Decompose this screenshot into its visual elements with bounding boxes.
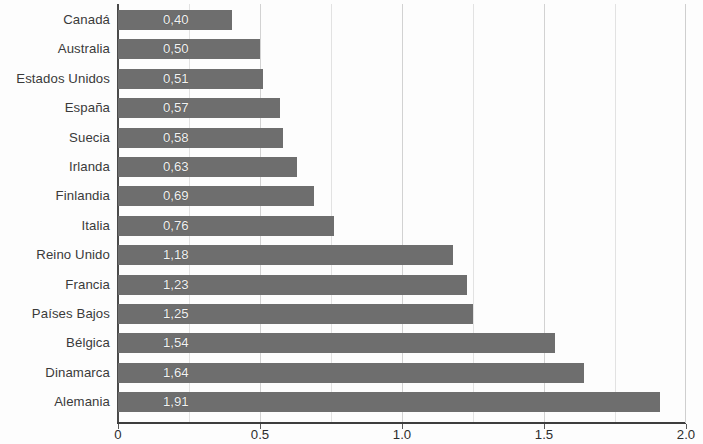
bar: [118, 69, 263, 89]
bar-row: Irlanda0,63: [0, 157, 703, 186]
bar: [118, 128, 283, 148]
x-tick-label: 2.0: [677, 427, 695, 442]
category-label: Suecia: [0, 128, 110, 148]
category-label: Canadá: [0, 10, 110, 30]
category-label: Finlandia: [0, 186, 110, 206]
x-tick-label: 1.5: [535, 427, 553, 442]
bar: [118, 216, 334, 236]
bar-value-label: 0,58: [163, 128, 189, 148]
bar-value-label: 1,18: [163, 245, 189, 265]
bar-value-label: 1,64: [163, 363, 189, 383]
bar-value-label: 1,91: [163, 392, 189, 412]
category-label: Países Bajos: [0, 304, 110, 324]
bar-value-label: 0,57: [163, 98, 189, 118]
bar-row: Reino Unido1,18: [0, 245, 703, 274]
bar-value-label: 1,25: [163, 304, 189, 324]
category-label: Dinamarca: [0, 363, 110, 383]
bar-row: Canadá0,40: [0, 10, 703, 39]
x-tick-label: 0: [114, 427, 121, 442]
category-label: Bélgica: [0, 333, 110, 353]
bar-row: Finlandia0,69: [0, 186, 703, 215]
bar-value-label: 0,69: [163, 186, 189, 206]
bar-row: Bélgica1,54: [0, 333, 703, 362]
bar: [118, 39, 260, 59]
bar-row: Países Bajos1,25: [0, 304, 703, 333]
category-label: Italia: [0, 216, 110, 236]
category-label: Estados Unidos: [0, 69, 110, 89]
bar-value-label: 0,76: [163, 216, 189, 236]
bar-row: Francia1,23: [0, 275, 703, 304]
x-tick-label: 0.5: [251, 427, 269, 442]
bar-row: Dinamarca1,64: [0, 363, 703, 392]
bar-value-label: 0,51: [163, 69, 189, 89]
bar-value-label: 1,23: [163, 275, 189, 295]
bar: [118, 98, 280, 118]
bar-value-label: 0,63: [163, 157, 189, 177]
category-label: Alemania: [0, 392, 110, 412]
x-tick-label: 1.0: [393, 427, 411, 442]
bar-value-label: 1,54: [163, 333, 189, 353]
category-label: Irlanda: [0, 157, 110, 177]
bar-row: Italia0,76: [0, 216, 703, 245]
bar-row: Alemania1,91: [0, 392, 703, 421]
bar: [118, 186, 314, 206]
bar-row: Suecia0,58: [0, 128, 703, 157]
bar-row: Estados Unidos0,51: [0, 69, 703, 98]
bar: [118, 392, 660, 412]
bar: [118, 157, 297, 177]
bar-value-label: 0,50: [163, 39, 189, 59]
category-label: Australia: [0, 39, 110, 59]
bar-row: España0,57: [0, 98, 703, 127]
bar-chart: Canadá0,40Australia0,50Estados Unidos0,5…: [0, 0, 703, 444]
bar-value-label: 0,40: [163, 10, 189, 30]
category-label: Reino Unido: [0, 245, 110, 265]
category-label: España: [0, 98, 110, 118]
category-label: Francia: [0, 275, 110, 295]
bar-row: Australia0,50: [0, 39, 703, 68]
